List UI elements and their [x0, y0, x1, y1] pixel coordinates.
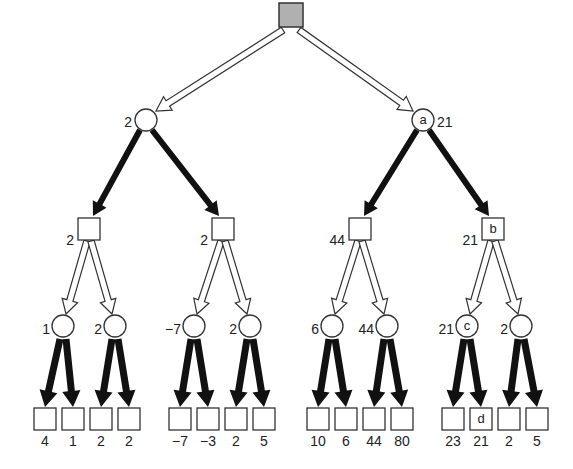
edge-level3-to-leaf	[62, 339, 80, 407]
edge-level1-to-level2	[427, 128, 489, 216]
leaf-value-label: 2	[505, 433, 513, 449]
edge-level2-to-level3	[466, 240, 494, 314]
chance-node-level1	[135, 109, 157, 131]
node-value-label: 2	[200, 232, 208, 248]
edge-level2-to-level3	[332, 240, 361, 314]
leaf-node	[90, 408, 112, 430]
node-value-label: −7	[165, 321, 181, 337]
leaf-node	[34, 408, 56, 430]
node-value-label: 2	[94, 321, 102, 337]
leaf-node	[498, 408, 520, 430]
edge-root-to-a-left	[156, 27, 285, 111]
node-value-label: 2	[500, 321, 508, 337]
node-tag-label: d	[477, 411, 484, 426]
leaf-node	[391, 408, 413, 430]
chance-node-level3	[510, 315, 532, 337]
node-value-label: 21	[462, 232, 478, 248]
root-node	[279, 3, 303, 27]
edge-level3-to-leaf	[367, 338, 387, 407]
edge-level2-to-level3	[492, 240, 521, 314]
leaf-node	[62, 408, 84, 430]
node-value-label: 2	[124, 114, 132, 130]
leaf-value-label: 2	[97, 433, 105, 449]
leaf-node	[169, 408, 191, 430]
node-value-label: 44	[329, 232, 345, 248]
leaf-node	[118, 408, 140, 430]
decision-node-level2	[349, 218, 371, 240]
leaf-node	[225, 408, 247, 430]
node-value-label: 2	[229, 321, 237, 337]
leaf-value-label: 44	[366, 433, 382, 449]
leaf-value-label: 23	[445, 433, 461, 449]
leaf-value-label: −7	[172, 433, 188, 449]
leaf-value-label: 10	[310, 433, 326, 449]
leaf-value-label: 5	[260, 433, 268, 449]
leaf-value-label: 2	[232, 433, 240, 449]
node-value-label: 6	[311, 321, 319, 337]
edge-level2-to-level3	[88, 240, 116, 314]
edge-level2-to-level3	[222, 240, 251, 314]
leaf-node	[526, 408, 548, 430]
leaf-node	[307, 408, 329, 430]
edge-level3-to-leaf	[115, 338, 136, 407]
edge-level1-to-level2	[150, 128, 219, 216]
chance-node-level3	[183, 315, 205, 337]
nodes: 2a212244b2112−72644c2124122−7−3251064480…	[34, 3, 548, 449]
edge-level1-to-level2	[93, 129, 143, 216]
leaf-value-label: 1	[69, 433, 77, 449]
edge-level3-to-leaf	[521, 338, 543, 407]
decision-node-level2	[212, 218, 234, 240]
leaf-node	[253, 408, 275, 430]
leaf-node	[442, 408, 464, 430]
edge-level2-to-level3	[62, 240, 90, 314]
decision-node-level2	[78, 218, 100, 240]
leaf-value-label: 80	[394, 433, 410, 449]
node-tag-label: b	[489, 221, 496, 236]
game-tree-diagram: 2a212244b2112−72644c2124122−7−3251064480…	[0, 0, 573, 469]
edge-level1-to-level2	[364, 128, 420, 216]
leaf-node	[335, 408, 357, 430]
edge-level3-to-leaf	[40, 338, 64, 407]
node-value-label: 21	[438, 321, 454, 337]
node-value-label: 2	[66, 232, 74, 248]
node-tag-label: a	[419, 112, 427, 127]
leaf-node	[363, 408, 385, 430]
leaf-value-label: 21	[473, 433, 489, 449]
edge-level3-to-leaf	[250, 338, 271, 407]
edge-level3-to-leaf	[95, 338, 116, 407]
node-value-label: 1	[42, 321, 50, 337]
leaf-value-label: 5	[533, 433, 541, 449]
leaf-value-label: 4	[41, 433, 49, 449]
leaf-node	[197, 408, 219, 430]
edges	[40, 27, 543, 407]
node-value-label: 21	[437, 114, 453, 130]
chance-node-level3	[239, 315, 261, 337]
edge-level3-to-leaf	[230, 338, 251, 407]
edge-level3-to-leaf	[332, 338, 353, 407]
edge-root-to-a-right	[297, 27, 413, 111]
edge-level3-to-leaf	[447, 338, 468, 407]
edge-level3-to-leaf	[502, 339, 521, 407]
edge-level3-to-leaf	[467, 338, 488, 407]
edge-level3-to-leaf	[194, 338, 215, 407]
chance-node-level3	[104, 315, 126, 337]
chance-node-level3	[52, 315, 74, 337]
leaf-value-label: −3	[200, 433, 216, 449]
leaf-value-label: 6	[342, 433, 350, 449]
edge-level3-to-leaf	[174, 338, 195, 407]
edge-level2-to-level3	[359, 240, 388, 314]
leaf-value-label: 2	[125, 433, 133, 449]
edge-level3-to-leaf	[387, 338, 409, 407]
chance-node-level3	[321, 315, 343, 337]
node-value-label: 44	[358, 321, 374, 337]
edge-level3-to-leaf	[312, 338, 333, 407]
node-tag-label: c	[464, 318, 471, 333]
edge-level2-to-level3	[194, 240, 224, 314]
chance-node-level3	[376, 315, 398, 337]
